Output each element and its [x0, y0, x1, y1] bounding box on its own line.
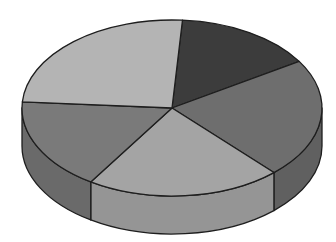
pie-top-faces[interactable]: [22, 20, 322, 196]
pie-slice-5[interactable]: [22, 20, 182, 108]
pie-chart-canvas: [0, 0, 336, 242]
pie-chart-3d: [0, 0, 336, 242]
